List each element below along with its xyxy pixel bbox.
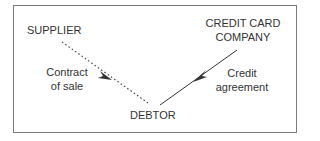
node-supplier: SUPPLIER [27,24,81,37]
edge-label-credit-line2: agreement [210,81,274,94]
edge-label-contract-line2: of sale [38,80,96,93]
node-debtor: DEBTOR [130,109,176,122]
edge-label-contract-line1: Contract [38,66,96,79]
node-credit-card-company-line2: COMPANY [196,31,290,44]
node-credit-card-company-line1: CREDIT CARD [196,17,290,30]
arrowhead-icon [193,70,207,82]
edge-label-credit-line1: Credit [210,67,274,80]
